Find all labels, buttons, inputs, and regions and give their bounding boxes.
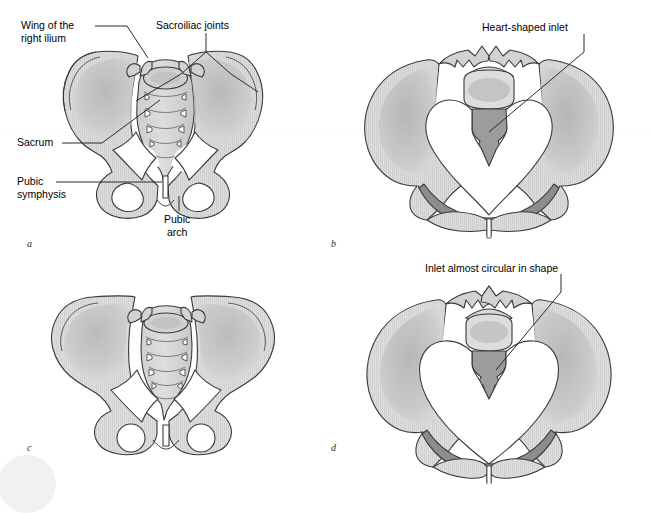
panel-b-male-pelvic-inlet: [326, 0, 652, 242]
panel-c-female-pelvis-anterior: [0, 242, 326, 484]
panel-letter-c: c: [27, 442, 31, 453]
panel-d-female-pelvic-inlet: [326, 242, 652, 484]
callout-line: Pubic: [17, 175, 66, 188]
callout-pubic-symphysis: Pubic symphysis: [17, 175, 66, 200]
callout-line: Wing of the: [21, 19, 74, 32]
callout-line: right ilium: [21, 32, 74, 45]
callout-line: Pubic: [164, 213, 190, 226]
panel-letter-a: a: [27, 238, 32, 249]
female-pelvis-anterior-illustration: [0, 242, 326, 484]
male-pelvic-inlet-illustration: [326, 0, 652, 242]
callout-inlet-almost-circular: Inlet almost circular in shape: [425, 262, 558, 275]
callout-line: Sacrum: [17, 136, 53, 149]
panel-letter-d: d: [331, 442, 336, 453]
callout-sacroiliac-joints: Sacroiliac joints: [156, 19, 229, 32]
callout-line: Inlet almost circular in shape: [425, 262, 558, 275]
callout-heart-shaped-inlet: Heart-shaped inlet: [482, 21, 568, 34]
callout-line: arch: [164, 226, 190, 239]
callout-line: Heart-shaped inlet: [482, 21, 568, 34]
callout-line: Sacroiliac joints: [156, 19, 229, 32]
female-pelvic-inlet-illustration: [326, 242, 652, 484]
callout-wing-of-right-ilium: Wing of the right ilium: [21, 19, 74, 44]
callout-line: symphysis: [17, 188, 66, 201]
panel-letter-b: b: [331, 238, 336, 249]
corner-watermark-circle: [0, 455, 56, 513]
callout-sacrum: Sacrum: [17, 136, 53, 149]
callout-pubic-arch: Pubic arch: [164, 213, 190, 238]
